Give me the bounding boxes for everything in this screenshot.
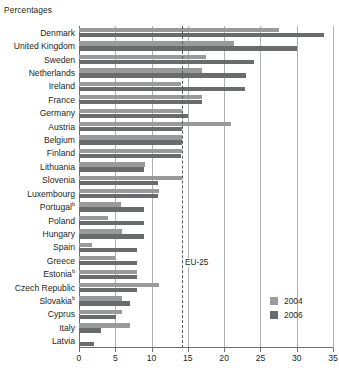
bar-2006 — [79, 342, 94, 346]
bar-2006 — [79, 33, 324, 37]
bar-row: France — [79, 93, 333, 106]
x-tick-mark-15 — [188, 348, 189, 352]
category-label-luxembourg: Luxembourg — [27, 189, 75, 199]
x-tick-label-0: 0 — [77, 353, 82, 363]
percentages-bar-chart: Percentages DenmarkUnited KingdomSwedenN… — [0, 0, 339, 370]
x-tick-mark-30 — [297, 348, 298, 352]
legend-item-2006[interactable]: 2006 — [270, 308, 303, 322]
bar-2006 — [79, 73, 246, 77]
category-label-hungary: Hungary — [43, 229, 75, 239]
x-tick-mark-25 — [260, 348, 261, 352]
bar-2006 — [79, 114, 188, 118]
bar-row: Lithuania — [79, 160, 333, 173]
category-label-slovenia: Slovenia — [42, 175, 75, 185]
bar-row: United Kingdom — [79, 39, 333, 52]
category-label-estonia: Estoniab — [43, 269, 75, 279]
bar-2004 — [79, 135, 182, 139]
bar-2004 — [79, 202, 121, 206]
x-tick-label-20: 20 — [219, 353, 229, 363]
bar-row: Portugalb — [79, 200, 333, 213]
x-tick-label-5: 5 — [113, 353, 118, 363]
bar-2004 — [79, 68, 202, 72]
bar-row: Austria — [79, 120, 333, 133]
x-tick-label-35: 35 — [328, 353, 338, 363]
category-label-greece: Greece — [47, 256, 75, 266]
category-label-netherlands: Netherlands — [29, 68, 75, 78]
bar-2004 — [79, 323, 130, 327]
bar-2004 — [79, 28, 279, 32]
category-label-finland: Finland — [47, 148, 75, 158]
bar-2004 — [79, 216, 108, 220]
bar-2006 — [79, 261, 137, 265]
bar-2004 — [79, 256, 115, 260]
eu25-reference-label: EU-25 — [184, 258, 209, 267]
bar-2006 — [79, 207, 144, 211]
bar-row: Czech Republic — [79, 281, 333, 294]
bar-row: Slovenia — [79, 174, 333, 187]
bar-row: Poland — [79, 214, 333, 227]
category-label-italy: Italy — [59, 323, 75, 333]
x-tick-label-30: 30 — [292, 353, 302, 363]
bar-2006 — [79, 328, 101, 332]
legend-item-2004[interactable]: 2004 — [270, 294, 303, 308]
bar-2006 — [79, 301, 130, 305]
bar-2004 — [79, 176, 182, 180]
bar-2004 — [79, 41, 234, 45]
bar-2006 — [79, 315, 116, 319]
category-label-slovakia: Slovakiab — [39, 296, 75, 306]
bar-2006 — [79, 234, 144, 238]
category-label-czech-republic: Czech Republic — [15, 283, 75, 293]
bar-2004 — [79, 149, 182, 153]
bar-2004 — [79, 122, 231, 126]
bar-2006 — [79, 248, 137, 252]
legend-label-2004: 2004 — [284, 296, 303, 306]
bar-row: Belgium — [79, 133, 333, 146]
legend-swatch-2006 — [270, 311, 278, 319]
category-label-spain: Spain — [53, 242, 75, 252]
x-tick-label-15: 15 — [183, 353, 193, 363]
bar-2004 — [79, 95, 202, 99]
category-label-cyprus: Cyprus — [48, 309, 75, 319]
category-label-lithuania: Lithuania — [40, 162, 75, 172]
bar-row: Finland — [79, 147, 333, 160]
bar-row: Denmark — [79, 26, 333, 39]
bar-2006 — [79, 87, 245, 91]
bar-row: Hungary — [79, 227, 333, 240]
category-label-portugal: Portugalb — [40, 202, 75, 212]
x-tick-mark-10 — [152, 348, 153, 352]
x-tick-mark-35 — [333, 348, 334, 352]
gridline-35 — [333, 26, 334, 348]
x-tick-mark-20 — [224, 348, 225, 352]
bar-2004 — [79, 189, 159, 193]
category-label-austria: Austria — [48, 122, 75, 132]
chart-legend: 20042006 — [270, 294, 303, 322]
x-axis-ticks: 05101520253035 — [79, 348, 333, 368]
bar-2006 — [79, 60, 254, 64]
category-label-belgium: Belgium — [44, 135, 75, 145]
bar-2004 — [79, 310, 122, 314]
bar-2004 — [79, 270, 137, 274]
bar-2006 — [79, 46, 297, 50]
bar-2004 — [79, 243, 92, 247]
bar-2006 — [79, 181, 158, 185]
legend-swatch-2004 — [270, 297, 278, 305]
x-tick-mark-5 — [115, 348, 116, 352]
x-tick-mark-0 — [79, 348, 80, 352]
bar-row: Latvia — [79, 335, 333, 348]
category-label-france: France — [48, 95, 75, 105]
bar-2004 — [79, 283, 159, 287]
bar-row: Germany — [79, 107, 333, 120]
bar-2004 — [79, 162, 145, 166]
bar-row: Italy — [79, 321, 333, 334]
bar-2006 — [79, 221, 144, 225]
bar-row: Ireland — [79, 80, 333, 93]
bar-2004 — [79, 109, 182, 113]
bar-2006 — [79, 275, 137, 279]
category-label-ireland: Ireland — [49, 81, 75, 91]
bar-2004 — [79, 55, 206, 59]
bar-2006 — [79, 194, 158, 198]
bar-2004 — [79, 296, 122, 300]
bar-2006 — [79, 154, 181, 158]
chart-unit-title: Percentages — [4, 5, 52, 15]
bar-row: Luxembourg — [79, 187, 333, 200]
